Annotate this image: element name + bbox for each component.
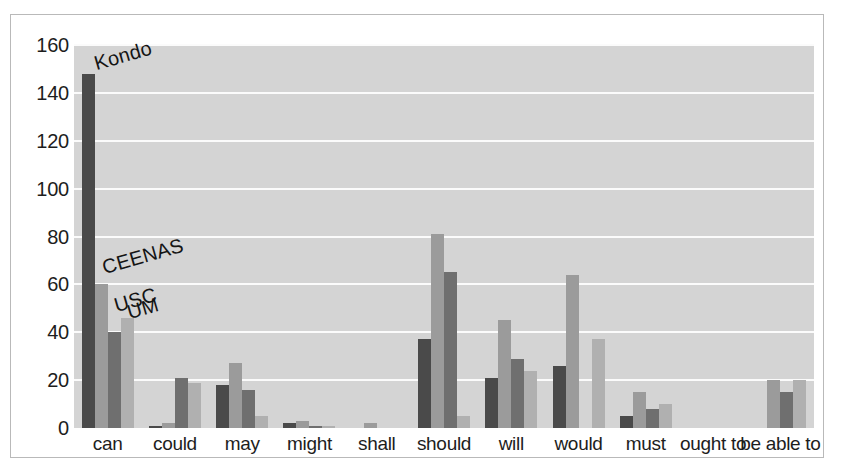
bar-group bbox=[478, 45, 545, 428]
bar bbox=[659, 404, 672, 428]
bar bbox=[149, 426, 162, 428]
bar bbox=[457, 416, 470, 428]
bar bbox=[524, 371, 537, 428]
bar bbox=[95, 284, 108, 428]
bar bbox=[121, 318, 134, 428]
x-axis-tick-label: shall bbox=[358, 433, 396, 455]
bar bbox=[566, 275, 579, 428]
bar bbox=[255, 416, 268, 428]
bar bbox=[620, 416, 633, 428]
bar bbox=[283, 423, 296, 428]
plot-area: KondoCEENASUSCUM bbox=[74, 45, 814, 428]
bar-group bbox=[276, 45, 343, 428]
y-axis-tick-label: 20 bbox=[47, 369, 69, 392]
bar bbox=[296, 421, 309, 428]
bar-group bbox=[747, 45, 814, 428]
bar bbox=[780, 392, 793, 428]
bar bbox=[242, 390, 255, 428]
bar bbox=[162, 423, 175, 428]
bar-group bbox=[545, 45, 612, 428]
bar-group bbox=[74, 45, 141, 428]
x-axis-tick-label: could bbox=[153, 433, 197, 455]
y-axis-tick-label: 80 bbox=[47, 225, 69, 248]
bar bbox=[175, 378, 188, 428]
bar-group bbox=[679, 45, 746, 428]
bar bbox=[444, 272, 457, 428]
x-axis-tick-label: might bbox=[287, 433, 332, 455]
x-axis-tick-label: may bbox=[225, 433, 260, 455]
bar-group bbox=[209, 45, 276, 428]
x-axis-tick-label: can bbox=[93, 433, 123, 455]
bar bbox=[485, 378, 498, 428]
bar bbox=[633, 392, 646, 428]
bar bbox=[646, 409, 659, 428]
y-axis-tick-label: 100 bbox=[36, 177, 69, 200]
bar bbox=[216, 385, 229, 428]
bar bbox=[322, 426, 335, 428]
bar bbox=[364, 423, 377, 428]
bar bbox=[431, 234, 444, 428]
y-axis-tick-label: 0 bbox=[58, 417, 69, 440]
bar bbox=[498, 320, 511, 428]
chart-screenshot: 020406080100120140160 KondoCEENASUSCUM c… bbox=[0, 0, 841, 475]
x-axis-tick-label: should bbox=[417, 433, 471, 455]
x-axis-tick-label: be able to bbox=[740, 433, 820, 455]
bar bbox=[793, 380, 806, 428]
bar-group bbox=[410, 45, 477, 428]
y-axis: 020406080100120140160 bbox=[15, 45, 69, 428]
y-axis-tick-label: 140 bbox=[36, 81, 69, 104]
bar bbox=[108, 332, 121, 428]
bar bbox=[418, 339, 431, 428]
y-axis-tick-label: 60 bbox=[47, 273, 69, 296]
bar bbox=[188, 383, 201, 428]
x-axis-tick-label: will bbox=[499, 433, 524, 455]
y-axis-tick-label: 120 bbox=[36, 129, 69, 152]
bar bbox=[309, 426, 322, 428]
bar-group bbox=[612, 45, 679, 428]
bar bbox=[82, 74, 95, 428]
y-axis-tick-label: 40 bbox=[47, 321, 69, 344]
bar bbox=[767, 380, 780, 428]
x-axis-tick-label: ought to bbox=[680, 433, 746, 455]
chart-frame: 020406080100120140160 KondoCEENASUSCUM c… bbox=[10, 14, 824, 458]
x-axis: cancouldmaymightshallshouldwillwouldmust… bbox=[74, 433, 814, 463]
bar bbox=[592, 339, 605, 428]
bar bbox=[229, 363, 242, 428]
x-axis-tick-label: must bbox=[626, 433, 666, 455]
bar bbox=[553, 366, 566, 428]
y-axis-tick-label: 160 bbox=[36, 34, 69, 57]
bar-group bbox=[343, 45, 410, 428]
x-axis-tick-label: would bbox=[554, 433, 602, 455]
bar bbox=[511, 359, 524, 428]
